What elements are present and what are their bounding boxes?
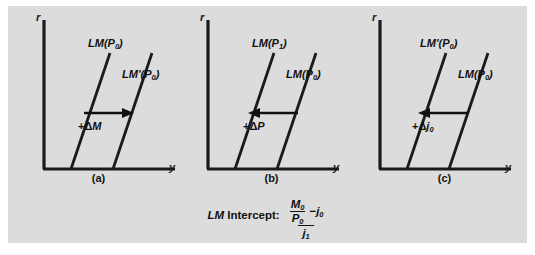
panel-b-curve-lower-text: LM(P <box>286 68 313 80</box>
panel-a-curve-lower-label: LM'(P0) <box>122 68 159 80</box>
panel-c-shift-sub: 0 <box>429 125 433 134</box>
panel-a-axes <box>12 6 185 196</box>
panel-c-curve-lower-text: LM(P <box>458 68 485 80</box>
panel-a-curve-lower-text: LM'(P <box>122 68 152 80</box>
panel-c-y-axis-label: r <box>372 11 376 23</box>
panel-b-curve-lower-suffix: ) <box>317 68 321 80</box>
panel-a-curve-upper-label: LM(P0) <box>88 37 123 49</box>
panel-a-shift-label: +ΔM <box>78 120 102 132</box>
panel-b-y-axis-label: r <box>200 11 204 23</box>
panel-c-curve-upper-suffix: ) <box>454 37 458 49</box>
panel-a-y-axis-label: r <box>36 11 40 23</box>
panel-a-curve-upper-suffix: ) <box>119 37 123 49</box>
panel-c: r y LM'(P0) LM(P0) +Δj0 (c) <box>358 6 531 196</box>
panel-c-caption: (c) <box>358 172 531 184</box>
panel-a-curve-upper-sub: 0 <box>115 42 119 51</box>
panel-b-shift-symbol: P <box>257 120 264 132</box>
panel-c-shift-label: +Δj0 <box>412 120 434 132</box>
panel-c-shift-prefix: +Δ <box>412 120 426 132</box>
panel-b-curve-lower-sub: 0 <box>313 73 317 82</box>
money-price-ratio: M0 P0 <box>289 198 307 224</box>
panel-c-curve-lower-suffix: ) <box>489 68 493 80</box>
panel-b-curve-upper-sub: 1 <box>279 42 283 51</box>
panel-c-curve-upper-text: LM'(P <box>420 37 450 49</box>
panel-c-curve-upper-label: LM'(P0) <box>420 37 457 49</box>
panel-a: r y LM(P0) LM'(P0) +ΔM (a) <box>12 6 185 196</box>
panel-a-shift-prefix: +Δ <box>78 120 92 132</box>
lm-curve-shift-figure: r y LM(P0) LM'(P0) +ΔM (a) r y LM(P1) LM <box>0 0 535 255</box>
intercept-label-text: Intercept: <box>224 209 280 221</box>
figure-background: r y LM(P0) LM'(P0) +ΔM (a) r y LM(P1) LM <box>8 6 527 243</box>
panel-b-caption: (b) <box>185 172 358 184</box>
panel-a-curve-lower-suffix: ) <box>156 68 160 80</box>
panel-c-curve-lower-label: LM(P0) <box>458 68 493 80</box>
intercept-denominator: j1 <box>298 225 313 239</box>
panel-b: r y LM(P1) LM(P0) +ΔP (b) <box>185 6 358 196</box>
panel-c-curve-lower-sub: 0 <box>485 73 489 82</box>
lm-curve-original <box>71 53 110 169</box>
panel-a-curve-upper-text: LM(P <box>88 37 115 49</box>
panel-b-curve-upper-suffix: ) <box>283 37 287 49</box>
intercept-numerator: M0 P0 −j0 <box>285 198 328 225</box>
intercept-caption: LM Intercept: <box>207 209 279 221</box>
panel-c-curve-upper-sub: 0 <box>450 42 454 51</box>
panel-a-shift-symbol: M <box>92 120 101 132</box>
panel-b-curve-lower-label: LM(P0) <box>286 68 321 80</box>
lm-intercept-formula: LM Intercept: M0 P0 −j0 j1 <box>8 196 527 243</box>
panel-b-curve-upper-label: LM(P1) <box>252 37 287 49</box>
panel-b-shift-label: +ΔP <box>243 120 265 132</box>
panel-a-caption: (a) <box>12 172 185 184</box>
panel-a-curve-lower-sub: 0 <box>152 73 156 82</box>
minus-j0-term: −j0 <box>309 205 323 217</box>
intercept-fraction: M0 P0 −j0 j1 <box>285 198 328 239</box>
price-term: P0 <box>290 211 306 225</box>
panel-b-curve-upper-text: LM(P <box>252 37 279 49</box>
panel-b-shift-prefix: +Δ <box>243 120 257 132</box>
money-term: M0 <box>289 198 307 211</box>
intercept-lm-label: LM <box>207 209 224 221</box>
